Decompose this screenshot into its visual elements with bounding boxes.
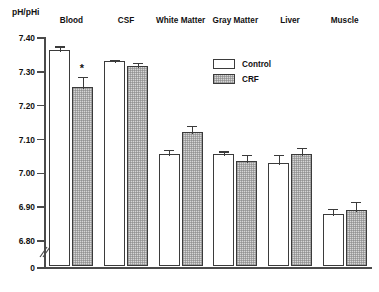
bar-gray-matter-crf	[236, 161, 257, 266]
y-tick-label-7: 0	[30, 263, 35, 273]
y-tick-5	[37, 206, 44, 207]
error-cap-gray-matter-control	[219, 151, 229, 152]
y-tick-4	[37, 173, 44, 174]
bar-white-matter-crf	[182, 132, 203, 266]
y-tick-label-3: 7.10	[19, 135, 35, 145]
y-tick-6	[37, 240, 44, 241]
legend-swatch-crf	[213, 74, 235, 84]
legend-label-crf: CRF	[242, 75, 259, 84]
y-tick-label-6: 6.80	[19, 236, 35, 246]
y-tick-label-0: 7.40	[19, 33, 35, 43]
legend-label-control: Control	[242, 60, 271, 69]
bar-muscle-control	[323, 214, 344, 266]
bar-blood-crf	[72, 87, 93, 266]
legend-swatch-control	[213, 59, 235, 69]
error-cap-csf-crf	[133, 63, 143, 64]
y-tick-label-4: 7.00	[19, 168, 35, 178]
error-cap-gray-matter-crf	[242, 155, 252, 156]
error-bar-blood-crf	[83, 77, 84, 89]
chart-figure: pH/pHi 7.407.307.207.107.006.906.800 Blo…	[0, 0, 379, 292]
error-cap-csf-control	[110, 60, 120, 61]
y-tick-label-5: 6.90	[19, 202, 35, 212]
plot-area: *	[44, 37, 372, 267]
error-cap-blood-control	[55, 46, 65, 47]
error-cap-white-matter-control	[164, 150, 174, 151]
y-tick-1	[37, 71, 44, 72]
x-axis-line	[44, 267, 372, 269]
bar-csf-crf	[127, 66, 148, 266]
error-bar-gray-matter-crf	[247, 155, 248, 163]
bar-muscle-crf	[346, 210, 367, 266]
bar-gray-matter-control	[213, 154, 234, 266]
error-cap-muscle-crf	[351, 202, 361, 203]
bar-csf-control	[104, 61, 125, 266]
bar-liver-control	[268, 163, 289, 266]
significance-marker-blood-crf: *	[80, 63, 84, 74]
error-bar-muscle-crf	[356, 202, 357, 212]
y-tick-label-2: 7.20	[19, 101, 35, 111]
error-cap-muscle-control	[328, 209, 338, 210]
error-cap-liver-control	[274, 155, 284, 156]
error-cap-blood-crf	[78, 77, 88, 78]
bar-white-matter-control	[159, 154, 180, 266]
bar-blood-control	[49, 50, 70, 266]
error-cap-liver-crf	[297, 148, 307, 149]
category-label-muscle: Muscle	[300, 16, 379, 25]
error-bar-liver-crf	[302, 148, 303, 156]
bar-liver-crf	[291, 154, 312, 266]
error-bar-white-matter-crf	[192, 126, 193, 134]
y-tick-2	[37, 105, 44, 106]
y-tick-7	[37, 267, 44, 268]
y-tick-label-1: 7.30	[19, 67, 35, 77]
error-cap-white-matter-crf	[187, 126, 197, 127]
error-bar-liver-control	[279, 155, 280, 165]
y-tick-3	[37, 139, 44, 140]
y-tick-0	[37, 37, 44, 38]
